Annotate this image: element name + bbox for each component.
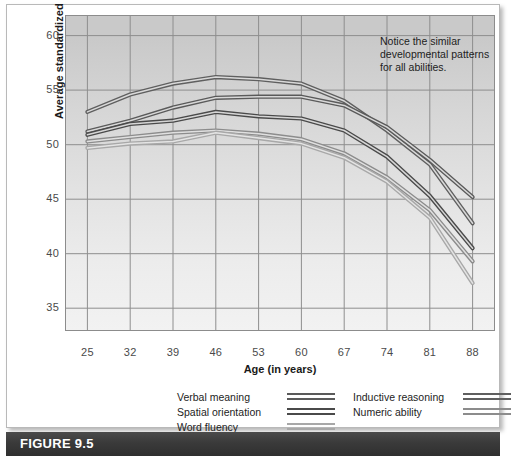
x-axis-tick-label: 81 (415, 346, 445, 358)
legend-column-right: Inductive reasoningNumeric ability (353, 389, 511, 419)
x-axis-tick-label: 32 (115, 346, 145, 358)
legend-item-swatch (287, 408, 335, 415)
series-line-outer (87, 112, 472, 248)
legend-item-swatch (287, 393, 335, 400)
series-word-fluency (87, 133, 472, 283)
chart-annotation: Notice the similar developmental pattern… (380, 35, 498, 74)
x-axis-tick-label: 25 (72, 346, 102, 358)
y-axis-tick-label: 50 (29, 138, 59, 150)
legend-item: Verbal meaning (177, 389, 337, 404)
legend-item: Inductive reasoning (353, 389, 511, 404)
legend-item-label: Spatial orientation (177, 406, 261, 418)
x-axis-tick-label: 60 (286, 346, 316, 358)
y-axis-tick-label: 35 (29, 301, 59, 313)
figure-panel: Average standardized score Age (in years… (6, 4, 500, 428)
x-axis-tick-label: 74 (372, 346, 402, 358)
legend-item: Spatial orientation (177, 404, 337, 419)
y-axis-tick-label: 45 (29, 192, 59, 204)
legend-item-swatch (463, 393, 511, 400)
figure-caption-label: FIGURE 9.5 (20, 436, 94, 451)
legend-item-label: Word fluency (177, 421, 238, 433)
legend-item: Numeric ability (353, 404, 511, 419)
legend-item-label: Verbal meaning (177, 391, 250, 403)
x-axis-tick-label: 67 (329, 346, 359, 358)
legend-item-label: Numeric ability (353, 406, 422, 418)
y-axis-tick-label: 55 (29, 83, 59, 95)
y-axis-tick-label: 40 (29, 247, 59, 259)
legend-column-left: Verbal meaningSpatial orientationWord fl… (177, 389, 337, 434)
chart-plot-wrapper: Average standardized score Age (in years… (65, 15, 495, 331)
x-axis-tick-label: 39 (158, 346, 188, 358)
figure-caption-bar: FIGURE 9.5 (6, 432, 500, 456)
legend-item-swatch (287, 423, 335, 430)
series-line-outer (87, 133, 472, 283)
series-spatial-orientation (87, 112, 472, 248)
y-axis-tick-label: 60 (29, 29, 59, 41)
series-line-inner (87, 133, 472, 283)
x-axis-tick-label: 53 (244, 346, 274, 358)
x-axis-title: Age (in years) (65, 363, 495, 375)
figure-9-5: Average standardized score Age (in years… (0, 0, 511, 459)
x-axis-tick-label: 88 (458, 346, 488, 358)
y-axis-title: Average standardized score (53, 0, 65, 119)
x-axis-tick-label: 46 (201, 346, 231, 358)
chart-legend: Verbal meaningSpatial orientationWord fl… (65, 389, 495, 433)
legend-item-swatch (463, 408, 511, 415)
legend-item-label: Inductive reasoning (353, 391, 444, 403)
